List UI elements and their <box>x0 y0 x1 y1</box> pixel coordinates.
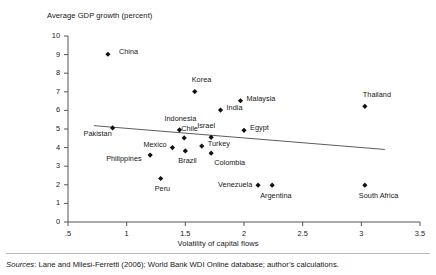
data-point-marker <box>362 104 367 109</box>
data-point-label: India <box>227 103 243 112</box>
data-point-label: Colombia <box>214 158 245 167</box>
data-point-marker <box>170 145 175 150</box>
sources-label: Sources <box>6 260 34 269</box>
data-point-label: Pakistan <box>84 129 112 138</box>
data-point-label: Peru <box>155 184 171 193</box>
y-axis-tick-label: 8 <box>40 68 60 77</box>
data-point-marker <box>148 152 153 157</box>
data-point-label: Mexico <box>143 140 166 149</box>
x-axis-tick-label: 3 <box>348 229 374 238</box>
data-point-label: Chile <box>181 124 198 133</box>
sources-body: : Lane and Milesi-Ferretti (2006); World… <box>34 260 339 269</box>
y-axis-tick-label: 5 <box>40 124 60 133</box>
data-point-marker <box>192 89 197 94</box>
data-point-label: Israel <box>197 121 215 130</box>
x-axis-tick-label: 1 <box>114 229 140 238</box>
data-point-marker <box>105 52 110 57</box>
data-point-label: Turkey <box>208 139 230 148</box>
data-point-marker <box>199 144 204 149</box>
data-point-marker <box>182 135 187 140</box>
data-point-label: Malaysia <box>246 94 275 103</box>
data-point-marker <box>362 183 367 188</box>
y-axis-tick-label: 2 <box>40 180 60 189</box>
data-point-marker <box>218 107 223 112</box>
data-point-marker <box>270 183 275 188</box>
sources-note: Sources: Lane and Milesi-Ferretti (2006)… <box>6 260 339 269</box>
data-point-marker <box>209 151 214 156</box>
data-point-label: Korea <box>192 75 212 84</box>
data-point-marker <box>255 183 260 188</box>
data-point-label: Brazil <box>178 156 196 165</box>
y-axis-tick-label: 7 <box>40 87 60 96</box>
data-point-label: Philippines <box>106 154 142 163</box>
y-axis-tick-label: 9 <box>40 50 60 59</box>
trend-line <box>94 126 385 150</box>
y-axis-tick-label: 0 <box>40 217 60 226</box>
data-point-label: Indonesia <box>164 114 196 123</box>
data-point-label: Venezuela <box>218 180 252 189</box>
data-point-marker <box>183 148 188 153</box>
y-axis-tick-label: 10 <box>40 31 60 40</box>
y-axis-tick-label: 1 <box>40 198 60 207</box>
x-axis-tick-label: 2.5 <box>290 229 316 238</box>
data-point-label: China <box>119 47 138 56</box>
x-axis-title: Volatility of capital flows <box>0 239 436 248</box>
data-point-marker <box>241 128 246 133</box>
y-axis-tick-label: 3 <box>40 161 60 170</box>
x-axis-tick-label: 2 <box>231 229 257 238</box>
data-point-label: South Africa <box>359 191 399 200</box>
y-axis-tick-label: 4 <box>40 143 60 152</box>
data-point-label: Thailand <box>363 90 391 99</box>
data-point-label: Egypt <box>250 123 269 132</box>
footer-divider <box>6 253 430 254</box>
x-axis-tick-label: 3.5 <box>407 229 433 238</box>
figure-container: Average GDP growth (percent) 01234567891… <box>0 0 436 275</box>
data-point-label: Argentina <box>260 191 291 200</box>
data-point-marker <box>158 176 163 181</box>
x-axis-tick-label: .5 <box>55 229 81 238</box>
y-axis-tick-label: 6 <box>40 105 60 114</box>
x-axis-tick-label: 1.5 <box>172 229 198 238</box>
